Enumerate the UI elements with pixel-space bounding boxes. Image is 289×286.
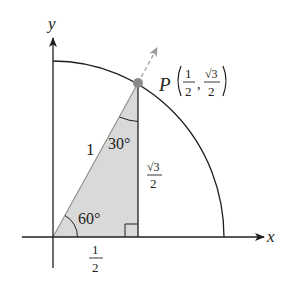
unit-circle-diagram: y x P 1 2 , √3 2 1 30° 60° √3 2 1 2	[0, 0, 289, 286]
horizontal-num: 1	[92, 242, 99, 257]
point-p-dot	[133, 78, 143, 88]
y-den: 2	[208, 84, 215, 99]
vertical-side-label: √3 2	[147, 160, 162, 191]
hypotenuse-label: 1	[86, 140, 95, 159]
y-axis-label: y	[46, 14, 56, 33]
vertical-den: 2	[150, 176, 157, 191]
x-axis-label: x	[266, 227, 275, 246]
angle-30-label: 30°	[108, 135, 130, 152]
left-paren	[178, 66, 181, 96]
vertical-num: √3	[147, 160, 160, 174]
horizontal-side-label: 1 2	[89, 242, 103, 275]
horizontal-den: 2	[92, 260, 99, 275]
point-name: P	[158, 74, 171, 95]
x-den: 2	[185, 84, 192, 99]
comma: ,	[197, 77, 201, 92]
point-p-label: P 1 2 , √3 2	[158, 66, 226, 99]
dashed-ray-arrow	[138, 48, 157, 83]
y-num: √3	[205, 67, 218, 81]
right-paren	[223, 66, 226, 96]
x-num: 1	[185, 66, 192, 81]
angle-60-label: 60°	[78, 210, 100, 227]
